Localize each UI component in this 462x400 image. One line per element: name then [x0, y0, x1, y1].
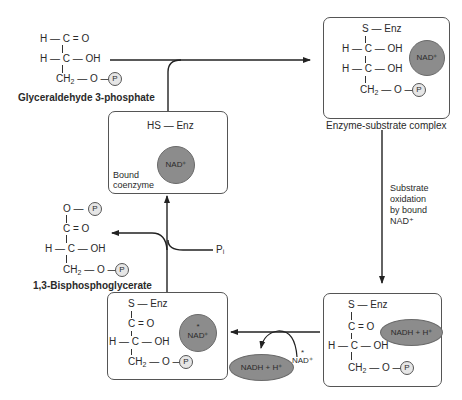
phosphate-icon: P: [115, 263, 129, 277]
bpg-label: 1,3-Bisphosphoglycerate: [33, 280, 152, 291]
g3p-label: Glyceraldehyde 3-phosphate: [18, 92, 155, 103]
g3p-line-2: H — C — OH: [40, 53, 101, 65]
es-line-2: H — C — OH: [342, 43, 403, 55]
oxidation-label-line: Substrate: [390, 183, 429, 194]
phosphate-icon: P: [400, 361, 414, 375]
labeled-mark: *: [180, 315, 216, 331]
ex-line-4: CH2 — O —: [128, 356, 182, 371]
oxidation-label-line: by bound: [390, 205, 429, 216]
phosphate-input-curve: [168, 240, 213, 250]
phosphate-input-label: Pᵢ: [216, 244, 224, 255]
bpg-line-3: H — C — OH: [45, 243, 106, 255]
free-enzyme-group: HS — Enz: [147, 120, 194, 132]
es-line-4: CH2 — O —: [360, 84, 414, 99]
red-line-2: C = O: [348, 321, 374, 333]
free-enzyme-box: HS — Enz NAD⁺ Bound coenzyme: [108, 111, 228, 194]
enzyme-join-curve: [168, 60, 181, 111]
nad-label: NAD⁺: [180, 331, 216, 341]
phosphate-icon: P: [108, 72, 122, 86]
nad-input-label: NAD⁺: [292, 356, 313, 366]
bpg-line-1: O —: [63, 203, 84, 215]
es-line-1: S — Enz: [362, 23, 401, 35]
nad-coenzyme-circle: * NAD⁺: [179, 314, 217, 352]
bpg-line-4: CH2 — O —: [63, 264, 117, 279]
phosphate-icon: P: [179, 355, 193, 369]
oxidation-label-line: NAD⁺: [390, 216, 429, 227]
red-line-1: S — Enz: [348, 299, 387, 311]
red-line-4: CH2 — O —: [348, 362, 402, 377]
nadh-bound-ellipse: NADH + H⁺: [380, 319, 443, 346]
phosphate-icon: P: [88, 202, 102, 216]
g3p-line-3: CH2 — O —: [56, 73, 110, 88]
bpg-line-2: C = O: [63, 223, 89, 235]
oxidation-label: Substrate oxidation by bound NAD⁺: [390, 183, 429, 227]
reduced-complex-box: S — Enz C = O H — C — OH CH2 — O — P NAD…: [323, 293, 442, 387]
ex-line-1: S — Enz: [128, 298, 167, 310]
ex-line-3: H — C — OH: [109, 336, 170, 348]
es-complex-label: Enzyme-substrate complex: [326, 120, 447, 131]
ex-line-2: C = O: [128, 318, 154, 330]
enzyme-substrate-complex-box: S — Enz H — C — OH H — C — OH CH2 — O — …: [323, 17, 450, 119]
exchanged-complex-box: S — Enz C = O H — C — OH CH2 — O — P * N…: [107, 292, 228, 380]
oxidation-label-line: oxidation: [390, 194, 429, 205]
product-release-curve: [112, 233, 167, 250]
nad-coenzyme-circle: NAD⁺: [409, 40, 445, 76]
es-line-3: H — C — OH: [342, 63, 403, 75]
nad-coenzyme-circle: NAD⁺: [157, 146, 195, 184]
phosphate-icon: P: [412, 83, 426, 97]
red-line-3: H — C — OH: [328, 340, 389, 352]
nadh-released-ellipse: NADH + H⁺: [229, 354, 294, 381]
g3p-line-1: H — C = O: [40, 33, 89, 45]
bound-annotation-2: coenzyme: [113, 179, 154, 191]
nad-input: * NAD⁺: [292, 350, 313, 366]
